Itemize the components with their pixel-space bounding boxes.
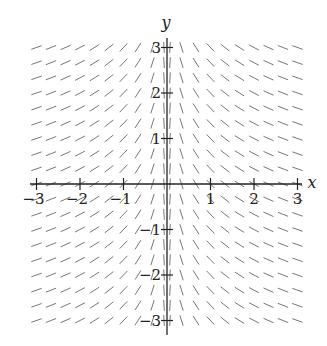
slope-field-plot: −3−2−1123−3−2−1123xy (0, 0, 327, 346)
slope-segment (60, 121, 70, 125)
slope-segment (90, 75, 99, 81)
slope-segment (164, 118, 165, 129)
slope-segment (135, 73, 141, 82)
slope-segment (193, 43, 199, 52)
slope-segment (193, 240, 199, 249)
slope-segment (221, 44, 230, 51)
slope-segment (221, 226, 230, 233)
slope-segment (120, 301, 128, 309)
x-tick-label: −3 (22, 190, 44, 208)
slope-segment (164, 300, 165, 311)
slope-segment (60, 303, 70, 307)
slope-segment (235, 211, 244, 217)
slope-segment (135, 240, 141, 249)
slope-segment (193, 149, 199, 158)
slope-segment (221, 302, 230, 309)
slope-segment (46, 288, 56, 292)
slope-segment (46, 212, 56, 216)
slope-segment (263, 106, 273, 110)
slope-segment (31, 76, 41, 80)
slope-segment (151, 300, 154, 310)
slope-segment (120, 135, 128, 143)
slope-segment (31, 137, 41, 141)
slope-segment (135, 149, 141, 158)
slope-segment (151, 164, 154, 174)
slope-segment (235, 45, 244, 51)
y-tick-label: −3 (139, 312, 161, 330)
slope-segment (278, 197, 288, 201)
slope-segment (221, 59, 230, 66)
slope-segment (278, 243, 288, 247)
slope-segment (180, 133, 183, 143)
slope-segment (292, 106, 302, 110)
slope-segment (60, 106, 70, 110)
slope-segment (207, 59, 215, 67)
slope-segment (90, 257, 99, 263)
slope-segment (60, 227, 70, 231)
slope-segment (135, 286, 141, 295)
slope-segment (135, 255, 141, 264)
slope-segment (278, 318, 288, 322)
slope-segment (221, 90, 230, 97)
slope-segment (31, 46, 41, 50)
slope-segment (180, 164, 183, 174)
slope-segment (263, 91, 273, 95)
slope-segment (292, 91, 302, 95)
slope-segment (46, 273, 56, 277)
slope-segment (278, 91, 288, 95)
slope-segment (180, 103, 183, 113)
slope-segment (292, 137, 302, 141)
slope-segment (164, 254, 165, 265)
slope-segment (105, 135, 114, 142)
slope-segment (120, 226, 128, 234)
slope-segment (278, 121, 288, 125)
slope-segment (90, 302, 99, 308)
slope-segment (75, 106, 85, 111)
slope-segment (180, 285, 183, 295)
slope-segment (170, 118, 171, 129)
slope-segment (263, 60, 273, 64)
slope-segment (180, 239, 183, 249)
slope-segment (90, 196, 99, 202)
slope-segment (221, 196, 230, 203)
slope-segment (75, 60, 85, 65)
slope-segment (193, 210, 199, 219)
slope-segment (193, 134, 199, 143)
slope-segment (105, 226, 114, 233)
slope-segment (151, 103, 154, 113)
slope-segment (90, 211, 99, 217)
slope-segment (31, 122, 41, 126)
slope-segment (75, 318, 85, 323)
slope-segment (75, 257, 85, 262)
slope-segment (120, 119, 128, 127)
slope-segment (75, 212, 85, 217)
slope-segment (46, 227, 56, 231)
slope-segment (120, 210, 128, 218)
slope-segment (170, 194, 171, 205)
slope-segment (135, 301, 141, 310)
x-tick-label: 3 (293, 190, 303, 208)
slope-segment (120, 286, 128, 294)
slope-segment (207, 150, 215, 158)
slope-segment (263, 45, 273, 49)
slope-segment (180, 209, 183, 219)
slope-segment (207, 317, 215, 325)
slope-segment (151, 255, 154, 265)
slope-segment (151, 239, 154, 249)
slope-segment (235, 302, 244, 308)
slope-segment (221, 256, 230, 263)
slope-segment (170, 57, 171, 68)
slope-segment (151, 73, 154, 83)
slope-segment (90, 151, 99, 157)
slope-segment (180, 194, 183, 204)
slope-segment (193, 286, 199, 295)
slope-segment (207, 74, 215, 82)
slope-segment (207, 256, 215, 264)
slope-segment (170, 209, 171, 220)
slope-segment (60, 76, 70, 80)
slope-segment (105, 241, 114, 248)
slope-segment (207, 241, 215, 249)
slope-segment (221, 105, 230, 112)
slope-segment (135, 195, 141, 204)
slope-segment (105, 150, 114, 157)
